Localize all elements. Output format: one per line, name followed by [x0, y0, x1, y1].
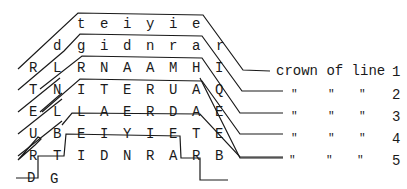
letter: i	[100, 38, 108, 54]
letter: T	[100, 82, 108, 98]
letter: r	[169, 38, 177, 54]
ditto-mark: "	[291, 88, 298, 100]
crown-label-text: crown of line	[276, 63, 385, 79]
letter: g	[77, 38, 85, 54]
letter: L	[77, 104, 85, 120]
crown-label-number: 4	[392, 131, 400, 147]
ditto-mark: "	[289, 154, 296, 166]
letter: y	[146, 16, 154, 32]
letter: H	[192, 60, 200, 76]
letter: D	[169, 104, 177, 120]
letter: e	[100, 16, 108, 32]
letter: E	[215, 126, 223, 142]
letter: I	[100, 126, 108, 142]
letter: N	[100, 60, 108, 76]
letter: L	[53, 60, 61, 76]
letter: E	[29, 104, 37, 120]
ditto-mark: "	[291, 132, 298, 144]
letter: a	[192, 38, 200, 54]
letter: U	[169, 82, 177, 98]
ditto-mark: "	[357, 154, 364, 166]
ditto-mark: "	[328, 88, 335, 100]
letter: B	[215, 148, 223, 164]
crown-label-number: 5	[392, 153, 400, 169]
ditto-mark: "	[328, 132, 335, 144]
letter: A	[146, 60, 155, 76]
letter: d	[53, 38, 61, 54]
letter: A	[192, 82, 201, 98]
ditto-mark: "	[359, 110, 366, 122]
letter-grid: t e i y i e d g i d n r a r R L R N A A …	[27, 16, 224, 187]
letter: G	[50, 171, 58, 187]
letter: L	[53, 104, 61, 120]
ditto-mark: "	[326, 154, 333, 166]
letter: Y	[123, 126, 132, 142]
letter: R	[192, 148, 201, 164]
crown-label-number: 3	[392, 109, 400, 125]
letter: M	[169, 60, 177, 76]
letter: n	[146, 38, 154, 54]
letter: R	[146, 104, 155, 120]
ditto-mark: "	[291, 110, 298, 122]
crown-label-number: 2	[392, 87, 400, 103]
letter: A	[192, 104, 201, 120]
letter: I	[77, 82, 85, 98]
letter: d	[123, 38, 131, 54]
letter: i	[169, 16, 177, 32]
letter: E	[123, 104, 131, 120]
letter: D	[100, 148, 108, 164]
letter: T	[53, 148, 61, 164]
letter: e	[192, 16, 200, 32]
letter: I	[215, 60, 223, 76]
letter: D	[27, 170, 35, 186]
ditto-mark: "	[359, 132, 366, 144]
letter: R	[29, 60, 38, 76]
letter: T	[29, 82, 37, 98]
letter: A	[123, 60, 132, 76]
ditto-mark: "	[328, 110, 335, 122]
crown-diagram: t e i y i e d g i d n r a r R L R N A A …	[0, 0, 407, 189]
letter: B	[53, 126, 61, 142]
letter: i	[123, 16, 131, 32]
letter: A	[100, 104, 109, 120]
ditto-mark: "	[359, 88, 366, 100]
letter: Q	[215, 82, 223, 98]
letter: R	[146, 148, 155, 164]
letter: r	[216, 38, 224, 54]
crown-labels: crown of line 1 " " " 2 " " " 3 " " " 4 …	[276, 63, 400, 169]
letter: N	[53, 82, 61, 98]
letter: T	[192, 126, 200, 142]
letter: E	[123, 82, 131, 98]
letter: R	[77, 60, 86, 76]
letter: A	[169, 148, 178, 164]
letter: N	[123, 148, 131, 164]
letter: I	[77, 148, 85, 164]
letter: I	[146, 126, 154, 142]
letter: R	[146, 82, 155, 98]
letter: R	[29, 148, 38, 164]
letter: U	[29, 126, 37, 142]
letter: E	[169, 126, 177, 142]
letter: E	[77, 126, 85, 142]
letter: t	[77, 16, 85, 32]
letter: E	[215, 104, 223, 120]
crown-label-number: 1	[392, 64, 400, 80]
